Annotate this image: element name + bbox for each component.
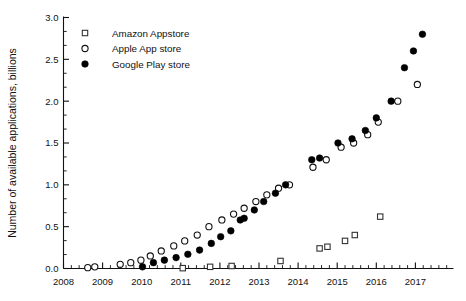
data-point	[171, 243, 177, 249]
y-axis-title: Number of available applications, billio…	[6, 48, 18, 238]
data-point	[264, 192, 270, 198]
data-point	[342, 238, 347, 243]
data-point	[158, 248, 164, 254]
scatter-chart-figure: 0.00.51.01.52.02.53.0Number of available…	[0, 0, 466, 301]
data-point	[410, 48, 417, 55]
data-point	[362, 127, 369, 134]
data-point	[241, 215, 248, 222]
data-point	[388, 98, 395, 105]
data-point	[282, 182, 289, 189]
x-tick-label: 2013	[248, 276, 269, 287]
x-tick-label: 2011	[171, 276, 191, 287]
x-tick-label: 2015	[327, 276, 348, 287]
data-point	[219, 217, 225, 223]
data-point	[310, 164, 316, 170]
data-point	[161, 257, 168, 264]
data-point	[335, 140, 342, 147]
data-point	[278, 258, 283, 263]
data-point	[196, 247, 203, 254]
data-point	[180, 265, 185, 270]
data-point	[207, 264, 212, 269]
data-point	[414, 81, 420, 87]
chart-svg: 0.00.51.01.52.02.53.0Number of available…	[0, 0, 466, 301]
series-apple-app-store	[85, 81, 421, 270]
data-point	[217, 233, 224, 240]
data-point	[138, 257, 144, 263]
data-point	[206, 224, 212, 230]
x-tick-label: 2009	[92, 276, 113, 287]
legend-label: Google Play store	[112, 59, 190, 70]
data-point	[260, 198, 267, 205]
data-point	[401, 64, 408, 71]
data-point	[323, 157, 329, 163]
data-point	[378, 214, 383, 219]
data-point	[185, 251, 192, 258]
data-point	[253, 198, 259, 204]
data-point	[419, 31, 426, 38]
data-point	[128, 260, 134, 266]
y-tick-label: 0.0	[45, 263, 58, 274]
data-point	[194, 232, 200, 238]
x-tick-label: 2012	[209, 276, 230, 287]
data-point	[395, 98, 401, 104]
data-point	[316, 155, 323, 162]
data-point	[373, 115, 380, 122]
data-point	[251, 207, 258, 214]
legend-label: Apple App store	[112, 43, 182, 54]
data-point	[349, 136, 356, 143]
data-point	[173, 254, 180, 261]
legend-label: Amazon Appstore	[112, 28, 190, 39]
y-tick-label: 2.5	[45, 54, 58, 65]
x-tick-label: 2016	[366, 276, 387, 287]
y-tick-label: 1.5	[45, 137, 58, 148]
y-tick-label: 0.5	[45, 221, 58, 232]
data-point	[230, 211, 236, 217]
x-tick-label: 2010	[131, 276, 152, 287]
x-tick-label: 2017	[405, 276, 426, 287]
x-tick-label: 2008	[53, 276, 74, 287]
data-point	[92, 264, 98, 270]
legend-marker-open-circle	[82, 45, 88, 51]
data-point	[325, 244, 330, 249]
data-point	[147, 253, 153, 259]
data-point	[229, 263, 234, 268]
data-point	[272, 190, 279, 197]
data-point	[308, 156, 315, 163]
y-tick-label: 2.0	[45, 96, 58, 107]
y-tick-label: 1.0	[45, 179, 58, 190]
data-point	[228, 228, 235, 235]
legend-marker-filled-circle	[82, 61, 89, 68]
data-point	[208, 240, 215, 247]
data-point	[317, 246, 322, 251]
legend-marker-open-square	[82, 30, 87, 35]
data-point	[85, 265, 91, 271]
data-point	[139, 264, 146, 271]
data-point	[352, 232, 357, 237]
data-point	[150, 259, 157, 266]
y-tick-label: 3.0	[45, 12, 58, 23]
data-point	[182, 238, 188, 244]
data-point	[117, 261, 123, 267]
data-point	[241, 205, 247, 211]
x-tick-label: 2014	[288, 276, 309, 287]
